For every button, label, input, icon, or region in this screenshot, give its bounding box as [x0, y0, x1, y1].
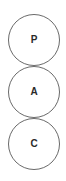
node-label: A: [30, 87, 37, 97]
circle-node-p: P: [8, 14, 60, 66]
circle-node-a: A: [8, 66, 60, 118]
node-label: C: [30, 139, 37, 149]
circle-node-c: C: [8, 118, 60, 170]
node-label: P: [31, 35, 38, 45]
